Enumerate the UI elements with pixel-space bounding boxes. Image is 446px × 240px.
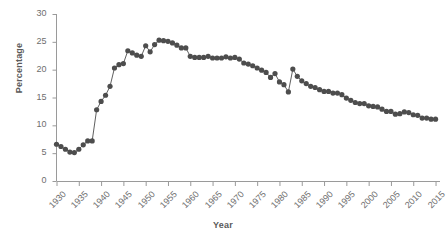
data-point-marker <box>54 142 59 147</box>
data-point-marker <box>268 75 273 80</box>
data-point-marker <box>406 110 411 115</box>
data-point-marker <box>411 112 416 117</box>
data-point-marker <box>272 71 277 76</box>
data-point-marker <box>94 107 99 112</box>
data-point-marker <box>90 138 95 143</box>
data-point-marker <box>277 79 282 84</box>
data-point-marker <box>281 82 286 87</box>
data-point-marker <box>255 65 260 70</box>
data-point-marker <box>179 45 184 50</box>
data-point-marker <box>170 40 175 45</box>
data-point-marker <box>152 42 157 47</box>
data-point-marker <box>308 84 313 89</box>
data-point-marker <box>415 113 420 118</box>
data-point-marker <box>393 112 398 117</box>
data-point-marker <box>228 55 233 60</box>
data-point-marker <box>98 99 103 104</box>
data-point-marker <box>161 38 166 43</box>
data-point-marker <box>384 109 389 114</box>
data-point-marker <box>63 147 68 152</box>
data-point-marker <box>130 50 135 55</box>
data-point-marker <box>192 55 197 60</box>
data-point-marker <box>174 43 179 48</box>
data-point-marker <box>402 109 407 114</box>
data-point-marker <box>148 49 153 54</box>
data-point-marker <box>317 87 322 92</box>
data-point-marker <box>344 95 349 100</box>
data-point-marker <box>433 117 438 122</box>
data-point-marker <box>330 90 335 95</box>
data-point-marker <box>183 45 188 50</box>
data-point-marker <box>339 92 344 97</box>
data-point-marker <box>156 38 161 43</box>
data-point-marker <box>237 56 242 61</box>
data-point-marker <box>206 54 211 59</box>
data-point-marker <box>299 78 304 83</box>
data-point-marker <box>362 101 367 106</box>
data-point-marker <box>197 55 202 60</box>
data-point-marker <box>81 142 86 147</box>
data-point-marker <box>250 63 255 68</box>
data-point-marker <box>103 93 108 98</box>
data-point-marker <box>375 104 380 109</box>
axis-lines <box>57 14 441 182</box>
data-point-marker <box>67 149 72 154</box>
data-point-marker <box>219 55 224 60</box>
x-tick-marks <box>57 182 436 186</box>
data-point-marker <box>397 111 402 116</box>
data-point-marker <box>85 138 90 143</box>
data-point-marker <box>143 43 148 48</box>
data-point-marker <box>112 65 117 70</box>
data-point-marker <box>295 74 300 79</box>
data-point-marker <box>241 60 246 65</box>
data-point-marker <box>428 117 433 122</box>
data-point-marker <box>286 89 291 94</box>
data-point-marker <box>76 147 81 152</box>
data-point-marker <box>259 68 264 73</box>
data-point-marker <box>201 55 206 60</box>
y-tick-marks <box>53 15 57 182</box>
data-point-marker <box>263 70 268 75</box>
data-point-marker <box>210 55 215 60</box>
data-point-marker <box>335 90 340 95</box>
data-point-marker <box>134 53 139 58</box>
data-point-marker <box>357 101 362 106</box>
data-point-marker <box>223 54 228 59</box>
data-point-marker <box>379 107 384 112</box>
data-point-marker <box>304 81 309 86</box>
series-line <box>57 40 436 152</box>
data-point-marker <box>420 116 425 121</box>
data-point-marker <box>188 54 193 59</box>
data-point-marker <box>139 54 144 59</box>
data-point-marker <box>107 84 112 89</box>
data-point-marker <box>366 103 371 108</box>
data-point-marker <box>58 144 63 149</box>
data-point-marker <box>371 104 376 109</box>
data-point-marker <box>214 55 219 60</box>
data-point-marker <box>72 150 77 155</box>
data-point-marker <box>348 98 353 103</box>
data-point-marker <box>353 100 358 105</box>
plot-area <box>0 0 446 240</box>
data-point-marker <box>388 109 393 114</box>
data-point-marker <box>326 89 331 94</box>
data-point-marker <box>165 39 170 44</box>
data-point-marker <box>424 116 429 121</box>
data-series <box>54 38 438 156</box>
data-point-marker <box>125 48 130 53</box>
data-point-marker <box>290 67 295 72</box>
data-point-marker <box>246 62 251 67</box>
data-point-marker <box>232 55 237 60</box>
chart-container: Percentage Year 051015202530 19301935194… <box>0 0 446 240</box>
data-point-marker <box>321 89 326 94</box>
data-point-marker <box>121 61 126 66</box>
data-point-marker <box>313 85 318 90</box>
data-point-marker <box>116 62 121 67</box>
